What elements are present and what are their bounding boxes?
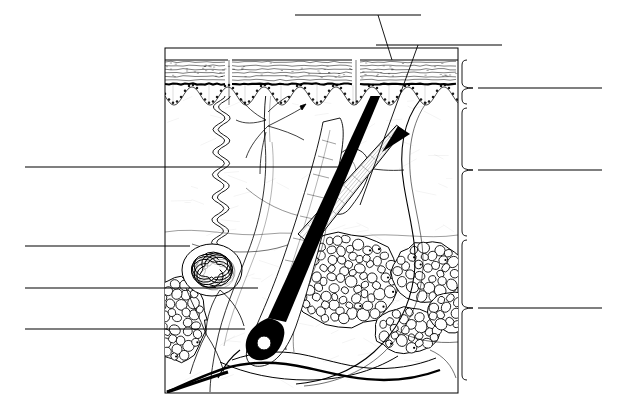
adipocyte [153,331,165,343]
adipocyte-nucleus [382,306,384,308]
basal-cell-dot [204,98,207,101]
basal-cell-dot [256,89,259,92]
basal-cell-dot [212,100,215,103]
basal-cell-dot [332,85,335,88]
adipocyte-nucleus [387,276,389,278]
basal-cell-dot [284,100,287,103]
brace-dermis [462,108,473,236]
basal-cell-dot [372,84,375,87]
basal-cell-dot [324,96,327,99]
basal-cell-dot [408,84,411,87]
adipocyte [380,320,387,328]
basal-cell-dot [328,89,331,92]
basal-cell-dot [380,93,383,96]
basal-cell-dot [416,93,419,96]
basal-cell-dot [196,87,199,90]
brace-epidermis [462,60,473,104]
adipocyte-nucleus [359,305,361,307]
basal-cell-dot [264,84,267,87]
basal-cell-dot [224,85,227,88]
adipocyte [461,314,474,327]
basal-cell-dot [176,100,179,103]
basal-cell-dot [168,98,171,101]
basal-cell-dot [248,100,251,103]
adipocyte [162,347,171,356]
basal-cell-dot [392,100,395,103]
adipocyte-nucleus [392,291,394,293]
basal-cell-dot [396,96,399,99]
basal-cell-dot [336,84,339,87]
basal-cell-dot [440,85,443,88]
adipocyte-nucleus [420,263,422,265]
diagram-canvas [0,0,627,413]
basal-cell-dot [448,87,451,90]
adipocyte-nucleus [369,249,371,251]
basal-cell-dot [364,89,367,92]
layer-braces [462,60,473,380]
basal-cell-dot [180,96,183,99]
basal-cell-dot [216,96,219,99]
basal-cell-dot [376,87,379,90]
dermal-papilla [257,336,271,350]
basal-cell-dot [220,89,223,92]
adipocyte-nucleus [413,347,415,349]
adipocyte [150,308,161,320]
basal-cell-dot [456,98,459,101]
adipocyte [326,237,333,245]
basal-cell-dot [192,84,195,87]
basal-cell-dot [384,98,387,101]
basal-cell-dot [304,87,307,90]
basal-cell-dot [232,87,235,90]
adipocyte-nucleus [469,319,471,321]
basal-cell-dot [444,84,447,87]
basal-cell-dot [300,84,303,87]
skin-cross-section-diagram [0,0,627,413]
basal-cell-dot [428,100,431,103]
basal-cell-dot [184,89,187,92]
basal-cell-dot [412,87,415,90]
basal-cell-dot [312,98,315,101]
adipocyte [373,256,381,266]
adipocyte-nucleus [444,259,446,261]
basal-cell-dot [292,89,295,92]
brace-hypodermis [462,240,473,380]
basal-cell-dot [404,85,407,88]
basal-cell-dot [320,100,323,103]
basal-cell-dot [348,98,351,101]
basal-cell-dot [276,98,279,101]
basal-cell-dot [360,96,363,99]
basal-cell-dot [368,85,371,88]
basal-cell-dot [340,87,343,90]
basal-cell-dot [436,89,439,92]
stratum-basale-line [165,83,225,84]
adipocyte [329,284,339,293]
stratum-basale-line [232,83,352,84]
basal-cell-dot [236,93,239,96]
adipocyte-nucleus [175,355,177,357]
basal-cell-dot [452,93,455,96]
adipocyte [362,301,373,311]
adipocyte-nucleus [378,248,380,250]
basal-cell-dot [164,93,167,96]
basal-cell-dot [296,85,299,88]
basal-cell-dot [260,85,263,88]
basal-cell-dot [272,93,275,96]
basal-cell-dot [268,87,271,90]
basal-cell-dot [308,93,311,96]
adipocyte-nucleus [196,341,198,343]
basal-cell-dot [432,96,435,99]
basal-cell-dot [252,96,255,99]
basal-cell-dot [188,85,191,88]
adipocyte [397,256,405,264]
basal-cell-dot [200,93,203,96]
basal-cell-dot [344,93,347,96]
adipocyte-nucleus [157,325,159,327]
